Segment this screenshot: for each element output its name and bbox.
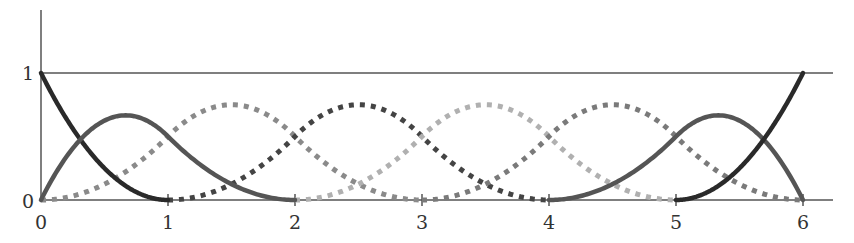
x-tick-label-2: 2: [289, 211, 301, 233]
x-tick-label-3: 3: [416, 211, 428, 233]
curves: [41, 73, 803, 200]
chart: 1 0 0 1 2 3 4 5 6: [0, 0, 854, 243]
curve-b7: [676, 73, 803, 200]
curve-b0: [41, 73, 168, 200]
x-tick-label-6: 6: [797, 211, 809, 233]
axes: [41, 10, 833, 206]
y-tick-label-0: 0: [22, 190, 34, 212]
x-tick-label-5: 5: [670, 211, 682, 233]
x-tick-label-0: 0: [35, 211, 47, 233]
curve-b4: [295, 105, 676, 200]
x-tick-label-4: 4: [543, 211, 555, 233]
curve-b1: [41, 115, 295, 200]
y-tick-label-1: 1: [22, 62, 34, 84]
curve-b6: [549, 115, 803, 200]
x-tick-label-1: 1: [162, 211, 174, 233]
curve-b3: [168, 105, 549, 200]
